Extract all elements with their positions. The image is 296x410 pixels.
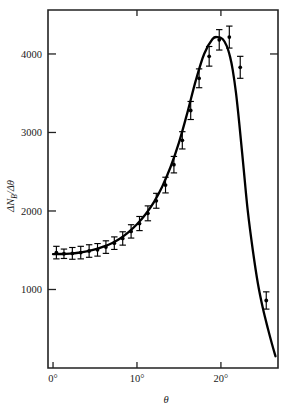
data-point-9 [129, 229, 133, 233]
curve-path [53, 37, 275, 356]
data-point-8 [121, 237, 125, 241]
y-tick-label-0: 1000 [21, 284, 42, 295]
data-point-1 [62, 252, 66, 256]
data-point-4 [87, 249, 91, 253]
data-point-16 [189, 109, 193, 113]
y-axis-title: ΔNB/Δθ [5, 180, 19, 213]
data-point-14 [172, 163, 176, 167]
axis-frame [48, 10, 278, 368]
fitted-curve [53, 37, 275, 356]
data-point-21 [238, 65, 242, 69]
y-tick-label-3: 4000 [21, 49, 42, 60]
data-points [54, 35, 268, 302]
data-point-11 [146, 211, 150, 215]
plot-canvas: 0°10°20° 1000200030004000 θ ΔNB/Δθ [0, 0, 296, 410]
x-tick-labels: 0°10°20° [48, 373, 228, 384]
y-axis-title-prefix: ΔN [5, 198, 16, 213]
x-tick-label-0: 0° [48, 373, 57, 384]
data-point-7 [112, 241, 116, 245]
x-tick-label-2: 20° [214, 373, 229, 384]
data-point-0 [54, 251, 58, 255]
data-point-19 [217, 38, 221, 42]
data-point-3 [79, 251, 83, 255]
y-tick-label-1: 2000 [21, 206, 42, 217]
frame-border [48, 10, 278, 368]
data-point-17 [197, 76, 201, 80]
y-axis-title-suffix: /Δθ [5, 180, 16, 195]
data-point-5 [96, 248, 100, 252]
data-point-2 [70, 251, 74, 255]
chart-figure: 0°10°20° 1000200030004000 θ ΔNB/Δθ [0, 0, 296, 410]
x-tick-label-1: 10° [130, 373, 145, 384]
data-point-22 [264, 299, 268, 303]
data-point-18 [207, 54, 211, 58]
x-axis-ticks [53, 362, 221, 368]
y-tick-label-2: 3000 [21, 127, 42, 138]
data-point-15 [180, 138, 184, 142]
svg-text:ΔNB/Δθ: ΔNB/Δθ [5, 180, 19, 213]
data-point-6 [104, 245, 108, 249]
data-point-13 [164, 183, 168, 187]
data-point-20 [227, 35, 231, 39]
y-tick-labels: 1000200030004000 [21, 49, 42, 296]
x-axis-title: θ [163, 394, 168, 405]
error-bars [53, 26, 269, 309]
data-point-10 [138, 222, 142, 226]
data-point-12 [154, 199, 158, 203]
